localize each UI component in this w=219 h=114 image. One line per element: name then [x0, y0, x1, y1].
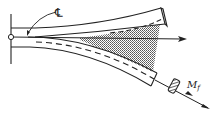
moment-subscript: f: [196, 84, 201, 92]
beam-deflection-diagram: ℄ Mf: [0, 0, 219, 114]
moment-label: M: [186, 79, 198, 90]
centerline-label: ℄: [27, 6, 63, 36]
centerline-symbol: ℄: [54, 6, 63, 20]
svg-text:Mf: Mf: [186, 79, 201, 92]
hinge-icon: [8, 34, 13, 39]
applied-moment: Mf: [155, 78, 210, 109]
moment-cylinder-icon: [168, 78, 181, 94]
